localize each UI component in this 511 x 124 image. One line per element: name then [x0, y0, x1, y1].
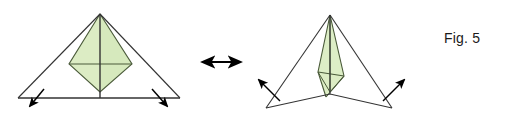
figure-5-diagram: Fig. 5: [0, 0, 511, 124]
base-arrow-left: [259, 80, 280, 101]
green-fold-face-spine: [318, 15, 344, 76]
folded-base-line: [266, 94, 392, 108]
base-arrow-right: [383, 80, 404, 101]
diagram-canvas: [0, 0, 511, 124]
panel-folded-state: [259, 15, 404, 108]
panel-flat-state: [18, 14, 180, 106]
figure-caption: Fig. 5: [444, 30, 480, 46]
